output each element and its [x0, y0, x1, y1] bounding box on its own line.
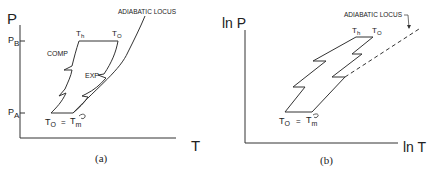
y-axis-label: P [7, 10, 17, 27]
caption-a: (a) [95, 152, 108, 165]
tick-label-pb: PB [8, 35, 19, 48]
tick-label-pa: PA [8, 107, 20, 120]
arrow-icon [79, 114, 85, 118]
panel-a: P T PB PA ADIABATIC LOCUS COMP EXP Th TO… [7, 8, 200, 165]
cycle-path [285, 37, 373, 112]
label-tm: Tm [70, 116, 82, 128]
comp-label: COMP [47, 50, 68, 57]
x-axis-label: T [191, 137, 200, 154]
adiabatic-locus-label: ADIABATIC LOCUS [118, 8, 177, 15]
adiabatic-locus-label: ADIABATIC LOCUS [344, 11, 403, 18]
arrow-icon-tm [313, 114, 318, 118]
label-equals: = [296, 117, 301, 126]
label-th: Th [352, 26, 360, 36]
label-th: Th [76, 29, 84, 39]
label-to-top: TO [112, 29, 122, 39]
label-equals: = [61, 118, 66, 127]
label-tm: Tm [306, 115, 318, 127]
y-axis-label: ln P [222, 15, 246, 31]
caption-b: (b) [320, 154, 333, 167]
label-to-top: TO [372, 26, 382, 36]
diagram-canvas: P T PB PA ADIABATIC LOCUS COMP EXP Th TO… [0, 0, 433, 179]
exp-label: EXP [85, 72, 99, 79]
label-to-bottom: TO [45, 117, 57, 128]
x-axis-label: ln T [403, 139, 427, 155]
panel-b: ln P ln T ADIABATIC LOCUS Th TO TO = Tm … [222, 11, 427, 167]
arrow-icon [407, 25, 411, 29]
adiabatic-locus-line [345, 29, 419, 77]
adiabatic-locus-curve [73, 16, 145, 113]
label-to-bottom: TO [279, 116, 291, 127]
